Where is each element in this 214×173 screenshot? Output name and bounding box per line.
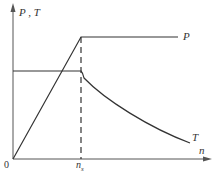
power-torque-diagram [0,0,214,173]
curve-p-label: P [183,31,190,42]
origin-label: 0 [4,160,9,170]
y-axis-label: P , T [19,7,40,18]
knee-tick-label: ns [76,160,84,173]
x-axis-label: n [199,145,205,156]
curve-p [13,37,178,159]
knee-tick-subscript: s [81,165,84,173]
curve-t [13,71,190,143]
y-axis-arrow-icon [11,3,16,12]
curve-t-label: T [192,132,198,143]
x-axis-arrow-icon [203,157,212,162]
